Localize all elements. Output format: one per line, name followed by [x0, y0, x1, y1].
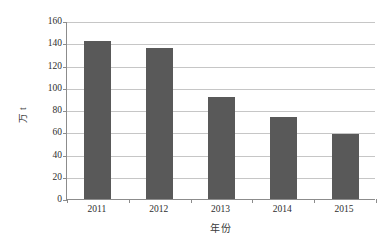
y-tick-label: 80 [26, 106, 62, 116]
bar [270, 117, 297, 199]
bar-chart-figure: 万 t 020406080100120140160 20112012201320… [0, 0, 390, 250]
bar [84, 41, 111, 199]
x-axis-title: 年份 [66, 220, 375, 235]
y-tick-label: 0 [26, 195, 62, 205]
x-axis-tick-labels: 20112012201320142015 [66, 203, 375, 219]
bar [146, 48, 173, 199]
y-tick-label: 120 [26, 62, 62, 72]
bar [208, 97, 235, 199]
y-tick-label: 100 [26, 84, 62, 94]
x-tick-label: 2015 [335, 203, 354, 215]
x-tick-label: 2012 [149, 203, 168, 215]
y-tick-label: 60 [26, 129, 62, 139]
bar [332, 134, 359, 199]
x-tick-label: 2011 [88, 203, 107, 215]
y-axis-tick-labels: 020406080100120140160 [26, 22, 62, 200]
y-tick-label: 40 [26, 151, 62, 161]
plot-area [66, 22, 375, 200]
y-tick-label: 20 [26, 173, 62, 183]
x-tick-mark [376, 199, 377, 203]
x-tick-label: 2013 [211, 203, 230, 215]
bars-group [67, 22, 375, 199]
y-tick-label: 140 [26, 40, 62, 50]
x-tick-label: 2014 [273, 203, 292, 215]
y-tick-label: 160 [26, 17, 62, 27]
